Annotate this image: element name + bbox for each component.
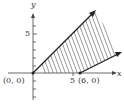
y-axis: [31, 13, 73, 100]
x-tick-label: 5: [70, 77, 75, 85]
origin-label: (0, 0): [3, 77, 25, 85]
point-6-0-label: (6, 0): [78, 77, 100, 85]
x-axis-label: x: [117, 70, 122, 78]
hatch-shading: [18, 0, 124, 80]
y-tick-label: 5: [25, 30, 30, 38]
upper-ray: [33, 10, 96, 73]
y-axis-label: y: [31, 1, 36, 9]
origin-point: [32, 72, 35, 75]
lower-ray: [80, 52, 122, 73]
point-6-0: [79, 72, 82, 75]
x-axis: [8, 71, 117, 75]
region-graph: [0, 0, 124, 105]
